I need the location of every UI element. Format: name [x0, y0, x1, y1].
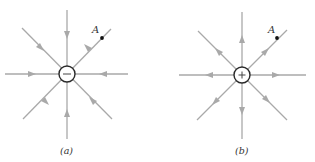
- diagram-b: A (b): [179, 12, 306, 156]
- arrow-icon: [205, 72, 213, 78]
- arrow-icon: [84, 44, 92, 52]
- arrow-icon: [41, 97, 49, 105]
- arrow-icon: [239, 35, 245, 43]
- caption-a: (a): [60, 145, 73, 156]
- arrow-icon: [28, 71, 36, 77]
- point-a-label: A: [267, 24, 275, 35]
- arrow-icon: [99, 71, 107, 77]
- diagram-a: A (a): [5, 10, 128, 156]
- caption-b: (b): [235, 145, 249, 156]
- arrow-icon: [64, 109, 70, 117]
- electric-field-diagram: A (a) A (b): [0, 0, 315, 162]
- arrow-icon: [239, 107, 245, 115]
- arrow-icon: [64, 31, 70, 39]
- arrow-icon: [272, 72, 280, 78]
- point-a-marker: [275, 36, 279, 40]
- arrow-icon: [89, 97, 97, 105]
- point-a-marker: [100, 36, 104, 40]
- point-a-label: A: [91, 24, 99, 35]
